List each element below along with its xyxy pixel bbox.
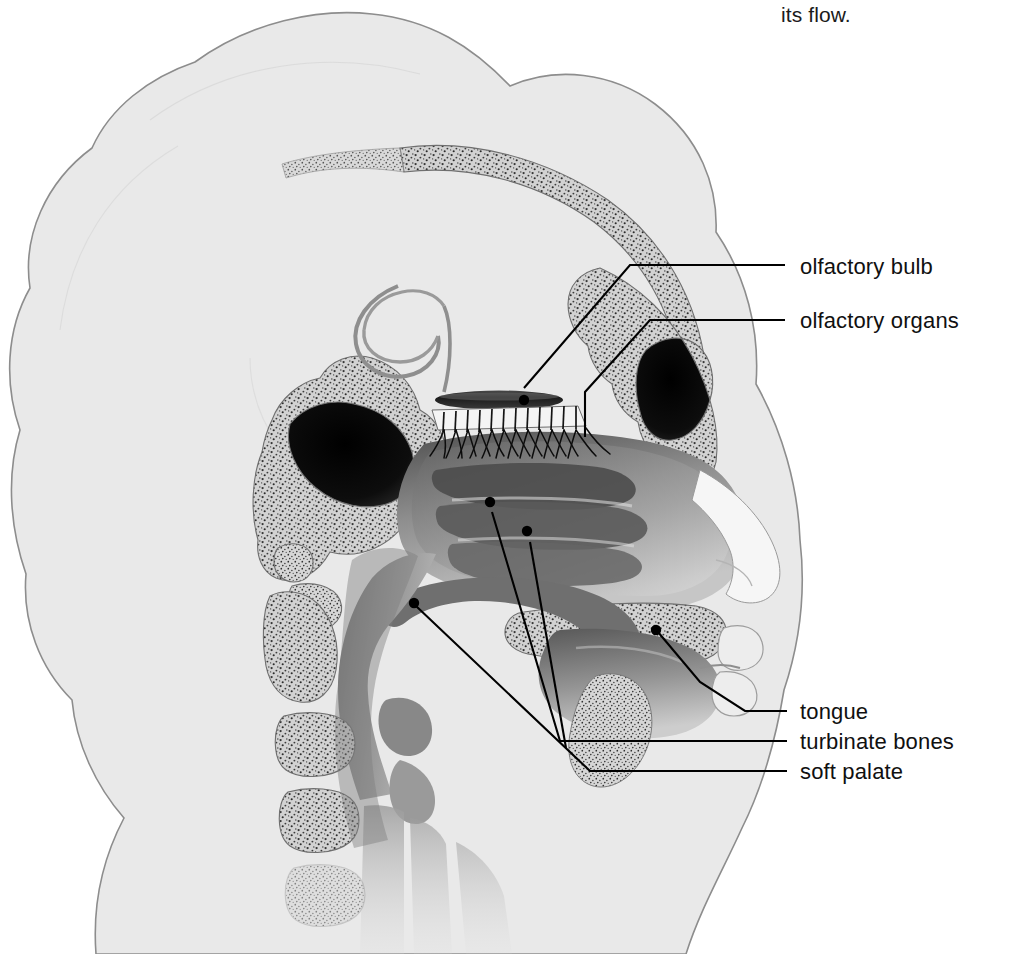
dot-turbinate-2 [522, 526, 532, 536]
label-tongue: tongue [800, 701, 868, 723]
dot-olfactory-bulb [519, 395, 529, 405]
label-olfactory-bulb: olfactory bulb [800, 256, 933, 278]
turbinate-bones [432, 463, 648, 586]
figure-canvas: its flow. olfactory bulb olfactory organ… [0, 0, 1013, 954]
dot-soft-palate [409, 598, 419, 608]
cribriform-plate [432, 406, 586, 432]
dot-turbinate-1 [485, 497, 495, 507]
label-soft-palate: soft palate [800, 761, 903, 783]
label-turbinate-bones: turbinate bones [800, 731, 954, 753]
anatomy-illustration [0, 0, 1013, 954]
dot-tongue [651, 625, 661, 635]
label-olfactory-organs: olfactory organs [800, 310, 959, 332]
caption-fragment: its flow. [781, 3, 851, 27]
